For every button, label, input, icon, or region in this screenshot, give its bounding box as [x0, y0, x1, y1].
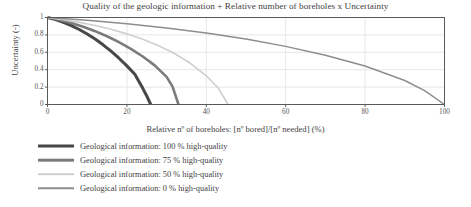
x-tick-label: 100 [433, 108, 457, 116]
y-tick-label: 0.8 [22, 30, 44, 38]
x-tick-label: 0 [36, 108, 60, 116]
x-tick-label: 80 [353, 108, 377, 116]
series-line-2 [48, 18, 229, 105]
legend-line-swatch [36, 168, 74, 180]
chart-figure: Quality of the geologic information + Re… [0, 0, 471, 207]
chart-legend: Geological information: 100 % high-quali… [36, 139, 366, 195]
legend-item[interactable]: Geological information: 100 % high-quali… [36, 139, 366, 153]
grid-lines [48, 18, 445, 105]
y-tick-label: 0.4 [22, 65, 44, 73]
x-tick-label: 40 [194, 108, 218, 116]
legend-item-label: Geological information: 75 % high-qualit… [80, 156, 223, 165]
series-lines [48, 18, 445, 105]
x-tick-label: 60 [274, 108, 298, 116]
plot-frame [48, 18, 445, 105]
legend-item[interactable]: Geological information: 50 % high-qualit… [36, 167, 366, 181]
x-tick-label: 20 [115, 108, 139, 116]
series-line-0 [48, 18, 151, 105]
legend-item-label: Geological information: 100 % high-quali… [80, 142, 227, 151]
legend-line-swatch [36, 140, 74, 152]
tick-marks [45, 18, 445, 108]
legend-line-swatch [36, 154, 74, 166]
legend-item-label: Geological information: 50 % high-qualit… [80, 170, 223, 179]
y-tick-label: 1 [22, 13, 44, 21]
series-line-3 [48, 18, 445, 105]
legend-item-label: Geological information: 0 % high-quality [80, 184, 219, 193]
legend-item[interactable]: Geological information: 75 % high-qualit… [36, 153, 366, 167]
legend-line-swatch [36, 182, 74, 194]
y-tick-label: 0.2 [22, 83, 44, 91]
y-tick-label: 0.6 [22, 48, 44, 56]
legend-item[interactable]: Geological information: 0 % high-quality [36, 181, 366, 195]
